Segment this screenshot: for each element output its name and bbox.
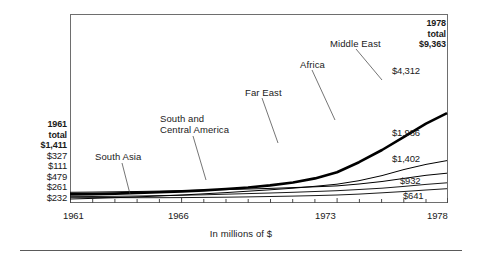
series-label-far-east: Far East [245, 87, 282, 98]
axis-caption: In millions of $ [0, 228, 482, 239]
x-tick-label-1966: 1966 [168, 210, 189, 221]
end-value-south-asia: $641 [403, 190, 423, 201]
chart-figure: 1961 total $1,411 $327 $111 $479 $261 $2… [0, 0, 482, 259]
x-tick-label-1961: 1961 [63, 210, 84, 221]
end-value-africa: $1,986 [392, 127, 420, 138]
right-total-word: total [390, 29, 446, 40]
series-label-south-asia: South Asia [95, 151, 141, 162]
right-total-year: 1978 [390, 18, 446, 29]
x-tick-label-1978: 1978 [427, 210, 448, 221]
left-total-word: total [10, 130, 67, 141]
series-label-south-and-central-america: South and Central America [160, 113, 229, 135]
x-tick-label-1973: 1973 [315, 210, 336, 221]
right-total-value: $9,363 [390, 39, 446, 50]
series-label-middle-east: Middle East [330, 38, 381, 49]
series-label-sca-line1: South and [160, 113, 229, 124]
start-value-south-asia: $232 [10, 193, 67, 203]
right-total-block: 1978 total $9,363 [390, 18, 446, 50]
bottom-separator-rule [20, 250, 462, 251]
series-label-africa: Africa [300, 59, 325, 70]
end-value-far-east: $1,402 [392, 153, 420, 164]
end-value-middle-east: $4,312 [392, 65, 420, 76]
series-label-sca-line2: Central America [160, 124, 229, 135]
left-start-values: $327 $111 $479 $261 $232 [10, 151, 67, 203]
end-value-south-central-america: $932 [400, 175, 420, 186]
left-total-block: 1961 total $1,411 [10, 119, 67, 151]
left-total-year: 1961 [10, 119, 67, 130]
left-total-value: $1,411 [10, 140, 67, 151]
